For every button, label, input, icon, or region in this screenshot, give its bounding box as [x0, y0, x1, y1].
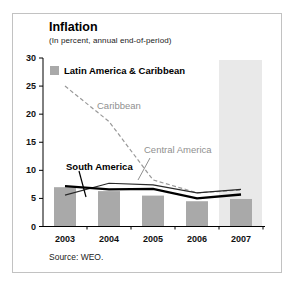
chart-subtitle: (In percent, annual end-of-period) [49, 36, 172, 45]
legend-swatch [50, 66, 59, 75]
pointer-south-america [79, 171, 86, 197]
chart-svg: 05101520253020032004200520062007 [13, 14, 281, 272]
source-note: Source: WEO. [49, 252, 103, 262]
x-tick-label-2007: 2007 [231, 234, 251, 244]
x-tick-label-2004: 2004 [99, 234, 119, 244]
pointer-central-america [138, 158, 150, 180]
x-tick-label-2005: 2005 [143, 234, 163, 244]
bar-2007 [230, 199, 252, 227]
y-tick-label: 10 [26, 165, 36, 175]
annotation-caribbean: Caribbean [97, 100, 141, 111]
legend: Latin America & Caribbean [50, 65, 185, 76]
inflation-figure: 05101520253020032004200520062007 Inflati… [12, 13, 282, 273]
y-tick-label: 30 [26, 53, 36, 63]
x-tick-label-2006: 2006 [187, 234, 207, 244]
y-tick-label: 20 [26, 109, 36, 119]
y-tick-label: 15 [26, 137, 36, 147]
annotation-central-america: Central America [144, 144, 212, 155]
y-tick-label: 5 [31, 193, 36, 203]
y-tick-label: 0 [31, 222, 36, 232]
annotation-south-america: South America [66, 161, 133, 172]
bar-2004 [98, 191, 120, 226]
legend-label: Latin America & Caribbean [64, 65, 185, 76]
bar-2006 [186, 201, 208, 226]
y-tick-label: 25 [26, 81, 36, 91]
bar-2005 [142, 196, 164, 227]
x-tick-label-2003: 2003 [55, 234, 75, 244]
chart-title: Inflation [49, 20, 98, 34]
line-caribbean [65, 86, 241, 193]
